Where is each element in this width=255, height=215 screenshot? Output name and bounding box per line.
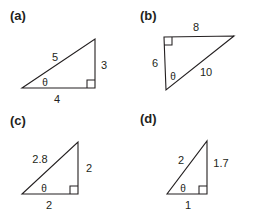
panel-d-hypotenuse-label: 2	[178, 154, 184, 166]
panel-d-adjacent-label: 1	[185, 199, 191, 211]
panel-d-triangle	[0, 0, 255, 215]
triangle-figure-set: (a) 5 3 4 θ (b) 6 8 10 θ (c) 2.8 2 2 θ	[0, 0, 255, 215]
panel-d-opposite-label: 1.7	[213, 157, 228, 169]
panel-d-angle-theta-label: θ	[180, 183, 186, 194]
